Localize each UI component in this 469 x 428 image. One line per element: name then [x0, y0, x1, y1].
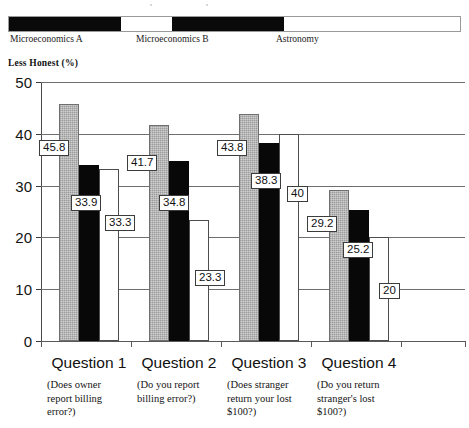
x-category-sublabel-2: (Do you reportbilling error?) — [137, 378, 223, 405]
x-sublabel-line: (Does stranger — [227, 378, 313, 392]
legend-label-1: Microeconomics A — [10, 34, 83, 44]
y-tick-label-10: 10 — [15, 281, 32, 298]
x-category-label-2: Question 2 — [142, 354, 217, 372]
bar-g1-s2 — [79, 165, 99, 341]
data-label-g3-s3: 40 — [287, 186, 308, 202]
y-tick-label-50: 50 — [15, 74, 32, 91]
y-axis-line — [41, 82, 42, 341]
plot-area: 45.833.933.341.734.823.343.838.34029.225… — [41, 82, 465, 341]
data-label-g2-s3: 23.3 — [195, 270, 225, 286]
legend-labels: Microeconomics AMicroeconomics BAstronom… — [8, 34, 461, 48]
bar-g2-s2 — [169, 161, 189, 341]
x-category-sublabel-3: (Does strangerreturn your lost$100?) — [227, 378, 313, 419]
y-tick-50 — [36, 82, 41, 83]
data-label-g1-s1: 45.8 — [39, 140, 69, 156]
x-tick-2 — [131, 341, 132, 347]
x-sublabel-line: (Does owner — [47, 378, 133, 392]
legend-label-2: Microeconomics B — [136, 34, 209, 44]
data-label-g2-s2: 34.8 — [159, 195, 189, 211]
x-category-label-4: Question 4 — [322, 354, 397, 372]
x-category-sublabel-4: (Do you returnstranger's lost$100?) — [317, 378, 403, 419]
x-sublabel-line: $100?) — [227, 405, 313, 419]
y-axis-tick-labels: 01020304050 — [0, 82, 41, 341]
data-label-g4-s3: 20 — [379, 283, 400, 299]
legend-swatch-2 — [172, 17, 284, 31]
x-category-label-3: Question 3 — [232, 354, 307, 372]
x-tick-4 — [311, 341, 312, 347]
y-tick-10 — [36, 289, 41, 290]
scan-artifact-2 — [206, 4, 208, 6]
y-tick-label-40: 40 — [15, 125, 32, 142]
data-label-g3-s2: 38.3 — [251, 173, 281, 189]
legend-label-3: Astronomy — [276, 34, 319, 44]
x-category-sublabel-1: (Does ownerreport billingerror?) — [47, 378, 133, 419]
x-sublabel-line: (Do you report — [137, 378, 223, 392]
y-tick-40 — [36, 134, 41, 135]
data-label-g1-s2: 33.9 — [71, 195, 101, 211]
x-tick-5 — [401, 341, 402, 347]
y-tick-label-30: 30 — [15, 177, 32, 194]
bar-g3-s3 — [279, 134, 299, 341]
data-label-g4-s2: 25.2 — [343, 242, 373, 258]
legend-swatch-1 — [9, 17, 121, 31]
x-tick-3 — [221, 341, 222, 347]
legend-strip — [8, 16, 461, 32]
bar-g1-s3 — [99, 169, 119, 341]
y-tick-20 — [36, 237, 41, 238]
y-tick-label-0: 0 — [24, 333, 32, 350]
x-category-label-1: Question 1 — [52, 354, 127, 372]
bar-g4-s2 — [349, 210, 369, 341]
x-sublabel-line: report billing — [47, 392, 133, 406]
x-sublabel-line: (Do you return — [317, 378, 403, 392]
x-sublabel-line: return your lost — [227, 392, 313, 406]
x-tick-1 — [41, 341, 42, 347]
x-tick-6 — [465, 341, 466, 347]
data-label-g3-s1: 43.8 — [217, 140, 247, 156]
data-label-g1-s3: 33.3 — [105, 215, 135, 231]
data-label-g4-s1: 29.2 — [307, 216, 337, 232]
y-tick-30 — [36, 186, 41, 187]
x-sublabel-line: $100?) — [317, 405, 403, 419]
x-sublabel-line: stranger's lost — [317, 392, 403, 406]
bar-g4-s1 — [329, 190, 349, 341]
chart-figure: Microeconomics AMicroeconomics BAstronom… — [0, 0, 469, 428]
data-label-g2-s1: 41.7 — [127, 155, 157, 171]
x-sublabel-line: error?) — [47, 405, 133, 419]
y-axis-title: Less Honest (%) — [8, 58, 78, 68]
gridline-50 — [41, 82, 465, 83]
scan-artifact-1 — [150, 4, 152, 6]
y-tick-label-20: 20 — [15, 229, 32, 246]
x-sublabel-line: billing error?) — [137, 392, 223, 406]
